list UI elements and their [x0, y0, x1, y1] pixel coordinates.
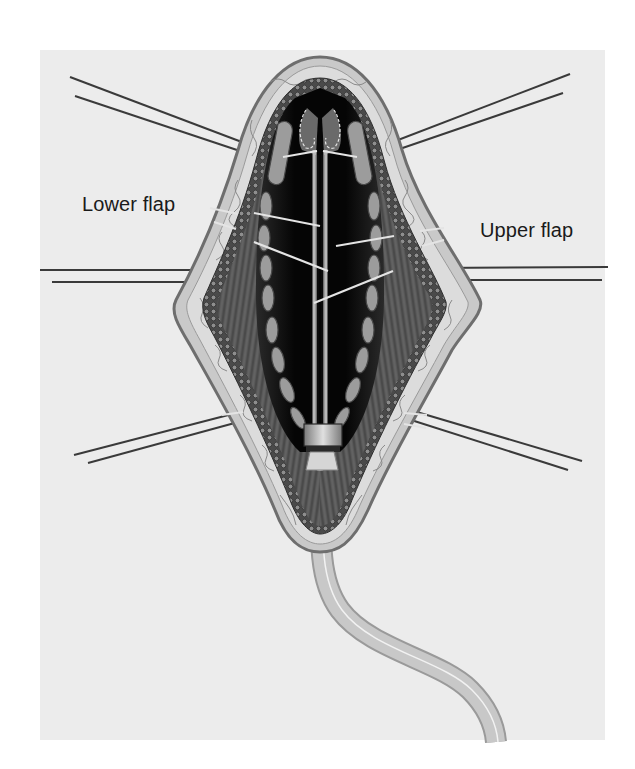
label-lower-flap: Lower flap [82, 193, 175, 216]
illustration-stage: Lower flap Upper flap [0, 0, 635, 769]
retractor-bottom-right [408, 410, 582, 470]
connector [304, 424, 342, 470]
surgical-flap-diagram [0, 0, 635, 769]
retractor-top-right [385, 74, 570, 153]
retractor-bottom-left [74, 412, 242, 463]
retractor-top-left [70, 77, 255, 155]
label-upper-flap: Upper flap [480, 219, 573, 242]
